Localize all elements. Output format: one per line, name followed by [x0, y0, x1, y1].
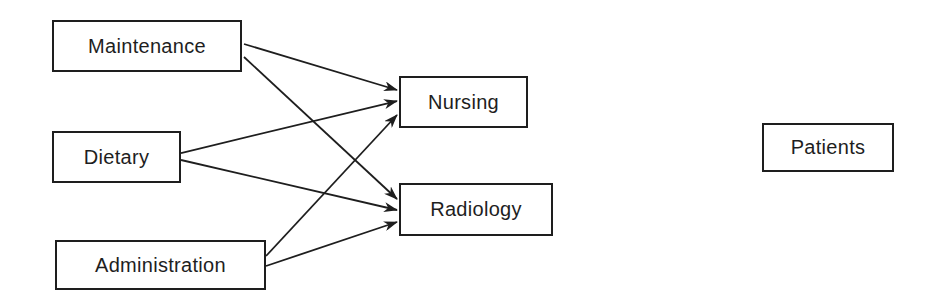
edge-administration-radiology [266, 222, 397, 266]
edge-dietary-radiology [181, 160, 397, 210]
allocation-diagram: Maintenance Dietary Administration Nursi… [0, 0, 937, 305]
edge-maintenance-radiology [244, 57, 397, 199]
node-maintenance: Maintenance [52, 20, 242, 72]
node-nursing-label: Nursing [428, 91, 499, 114]
node-administration-label: Administration [95, 254, 226, 277]
node-radiology-label: Radiology [430, 198, 522, 221]
node-nursing: Nursing [399, 76, 528, 128]
node-radiology: Radiology [399, 183, 553, 236]
edge-dietary-nursing [181, 101, 397, 153]
node-patients-label: Patients [791, 136, 866, 159]
edge-administration-nursing [266, 115, 397, 256]
node-dietary: Dietary [52, 131, 181, 183]
edge-maintenance-nursing [244, 44, 397, 90]
node-maintenance-label: Maintenance [88, 35, 206, 58]
node-administration: Administration [55, 240, 266, 290]
node-patients: Patients [762, 123, 894, 172]
node-dietary-label: Dietary [84, 146, 149, 169]
